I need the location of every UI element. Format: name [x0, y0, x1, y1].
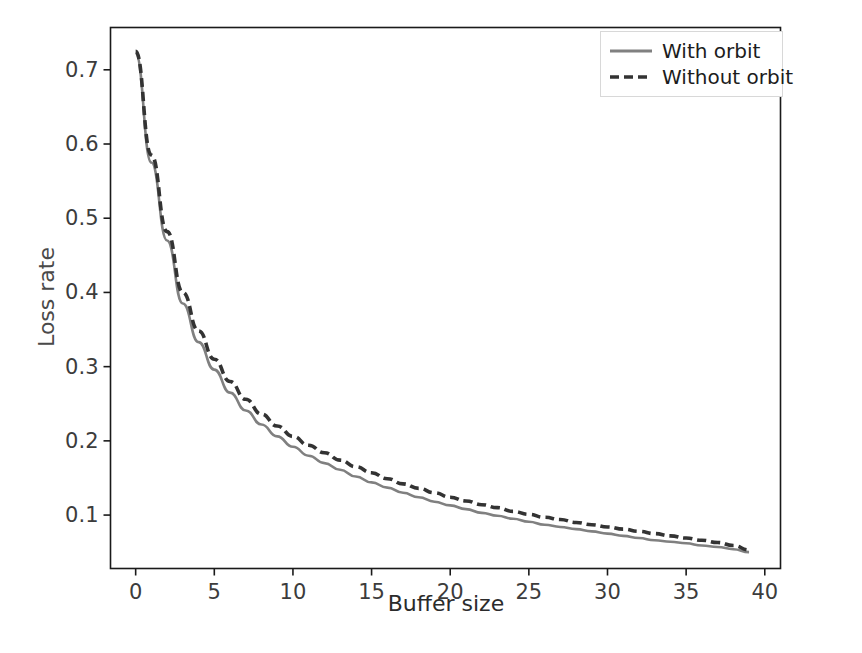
- plot-area: [0, 0, 862, 653]
- figure-canvas: 0510152025303540 0.10.20.30.40.50.60.7 B…: [0, 0, 862, 653]
- x-tick-label: 0: [129, 580, 142, 604]
- legend-swatch-solid-line-icon: [609, 44, 653, 58]
- series-line-without-orbit: [136, 51, 749, 550]
- x-tick-label: 40: [751, 580, 778, 604]
- x-tick-label: 30: [594, 580, 621, 604]
- x-tick-label: 35: [673, 580, 700, 604]
- axes-frame: [111, 28, 781, 569]
- x-tick-label: 15: [358, 580, 385, 604]
- series-line-with-orbit: [136, 53, 749, 552]
- y-tick-label: 0.5: [65, 206, 98, 230]
- legend: With orbit Without orbit: [600, 31, 783, 97]
- y-tick-label: 0.2: [65, 429, 98, 453]
- y-tick-label: 0.3: [65, 355, 98, 379]
- plot-frame: [111, 28, 781, 569]
- x-tick-label: 25: [515, 580, 542, 604]
- y-tick-label: 0.6: [65, 132, 98, 156]
- y-axis-label: Loss rate: [34, 247, 59, 347]
- legend-swatch-dashed-line-icon: [609, 70, 653, 84]
- y-tick-label: 0.1: [65, 503, 98, 527]
- data-series-group: [136, 51, 749, 552]
- y-tick-marks: [104, 70, 111, 515]
- y-tick-label: 0.7: [65, 58, 98, 82]
- legend-label-without-orbit: Without orbit: [662, 65, 793, 89]
- legend-entry-without-orbit: Without orbit: [609, 64, 772, 90]
- y-tick-label: 0.4: [65, 280, 98, 304]
- x-tick-label: 5: [208, 580, 221, 604]
- x-axis-label: Buffer size: [388, 591, 504, 616]
- x-tick-marks: [136, 569, 765, 576]
- legend-entry-with-orbit: With orbit: [609, 38, 772, 64]
- x-tick-label: 10: [280, 580, 307, 604]
- legend-label-with-orbit: With orbit: [662, 39, 760, 63]
